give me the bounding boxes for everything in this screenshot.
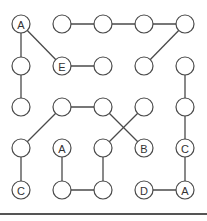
node-label: A	[181, 185, 189, 197]
node-n22	[94, 98, 112, 116]
node-n30	[135, 15, 153, 33]
node-n33: B	[135, 139, 153, 157]
node-n12	[53, 98, 71, 116]
node-n20	[94, 15, 112, 33]
node-n43: C	[176, 139, 194, 157]
node-circle	[94, 181, 112, 199]
node-n23	[94, 139, 112, 157]
node-circle	[53, 181, 71, 199]
node-n31	[135, 57, 153, 75]
node-circle	[135, 57, 153, 75]
node-n03	[12, 139, 30, 157]
node-circle	[135, 15, 153, 33]
node-n42	[176, 98, 194, 116]
node-label: E	[58, 61, 65, 73]
node-label: A	[17, 19, 25, 31]
node-circle	[94, 139, 112, 157]
node-n40	[176, 15, 194, 33]
node-label: A	[58, 143, 66, 155]
node-label: C	[17, 185, 25, 197]
node-n14	[53, 181, 71, 199]
node-n10	[53, 15, 71, 33]
node-circle	[53, 98, 71, 116]
node-n01	[12, 57, 30, 75]
node-circle	[94, 57, 112, 75]
node-n32	[135, 98, 153, 116]
node-circle	[12, 139, 30, 157]
node-label: C	[181, 143, 189, 155]
node-label: D	[140, 185, 148, 197]
node-n11: E	[53, 57, 71, 75]
node-n24	[94, 181, 112, 199]
node-circle	[94, 98, 112, 116]
node-n34: D	[135, 181, 153, 199]
node-circle	[94, 15, 112, 33]
node-circle	[12, 98, 30, 116]
node-circle	[176, 15, 194, 33]
node-n13: A	[53, 139, 71, 157]
puzzle-diagram: AEABCCDA	[0, 0, 207, 221]
node-n04: C	[12, 181, 30, 199]
bottom-divider	[0, 213, 207, 215]
node-n21	[94, 57, 112, 75]
node-n41	[176, 57, 194, 75]
node-n00: A	[12, 15, 30, 33]
node-n02	[12, 98, 30, 116]
node-circle	[135, 98, 153, 116]
node-label: B	[140, 143, 147, 155]
node-n44: A	[176, 181, 194, 199]
node-circle	[12, 57, 30, 75]
node-circle	[53, 15, 71, 33]
node-circle	[176, 98, 194, 116]
node-circle	[176, 57, 194, 75]
